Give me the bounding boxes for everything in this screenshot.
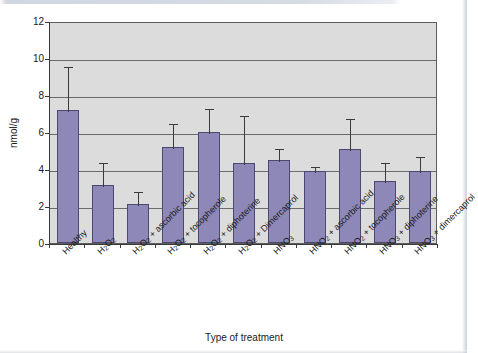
error-bar-cap — [381, 163, 390, 164]
x-tick-mark — [225, 244, 226, 248]
error-bar-line — [420, 157, 421, 173]
x-tick-mark — [331, 244, 332, 248]
error-bar-cap — [169, 124, 178, 125]
gridline — [50, 134, 436, 135]
gridline — [50, 97, 436, 98]
error-bar-cap — [64, 67, 73, 68]
error-bar-cap — [311, 167, 320, 168]
error-bar-line — [103, 163, 104, 187]
y-tick-mark — [45, 59, 49, 60]
y-tick-mark — [45, 133, 49, 134]
y-tick-mark — [45, 170, 49, 171]
y-axis-title: nmol/g — [8, 118, 19, 148]
y-tick-mark — [45, 22, 49, 23]
x-tick-mark — [49, 244, 50, 248]
gridline — [50, 60, 436, 61]
x-tick-mark — [190, 244, 191, 248]
error-bar-line — [173, 124, 174, 149]
x-tick-mark — [402, 244, 403, 248]
y-tick-label: 8 — [0, 91, 49, 101]
error-bar-line — [138, 192, 139, 206]
x-tick-mark — [155, 244, 156, 248]
error-bar-line — [244, 116, 245, 165]
error-bar-cap — [99, 163, 108, 164]
x-axis-title: Type of treatment — [205, 332, 283, 343]
error-bar-line — [68, 67, 69, 111]
error-bar-cap — [240, 116, 249, 117]
error-bar-line — [279, 149, 280, 162]
y-tick-label: 4 — [0, 165, 49, 175]
error-bar-line — [350, 119, 351, 150]
error-bar-cap — [346, 119, 355, 120]
y-axis-line — [49, 22, 50, 244]
y-tick-mark — [45, 207, 49, 208]
x-tick-mark — [261, 244, 262, 248]
y-tick-label: 0 — [0, 239, 49, 249]
error-bar-cap — [205, 109, 214, 110]
y-tick-label: 12 — [0, 17, 49, 27]
x-tick-mark — [296, 244, 297, 248]
error-bar-line — [385, 163, 386, 183]
error-bar-line — [209, 109, 210, 134]
error-bar-cap — [134, 192, 143, 193]
x-tick-mark — [437, 244, 438, 248]
error-bar-cap — [416, 157, 425, 158]
bar — [304, 171, 326, 243]
x-tick-mark — [366, 244, 367, 248]
x-tick-mark — [120, 244, 121, 248]
y-tick-mark — [45, 96, 49, 97]
error-bar-cap — [275, 149, 284, 150]
bar — [57, 110, 79, 243]
y-tick-label: 10 — [0, 54, 49, 64]
y-tick-label: 2 — [0, 202, 49, 212]
x-tick-mark — [84, 244, 85, 248]
